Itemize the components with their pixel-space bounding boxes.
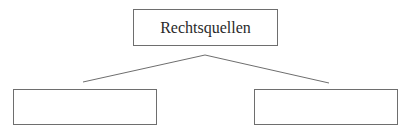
connector-line-right <box>205 55 329 83</box>
child-node-right-empty <box>254 89 398 125</box>
root-node-rechtsquellen: Rechtsquellen <box>133 9 278 46</box>
root-node-label: Rechtsquellen <box>160 19 251 37</box>
connector-line-left <box>83 55 205 82</box>
child-node-left-empty <box>13 89 157 125</box>
